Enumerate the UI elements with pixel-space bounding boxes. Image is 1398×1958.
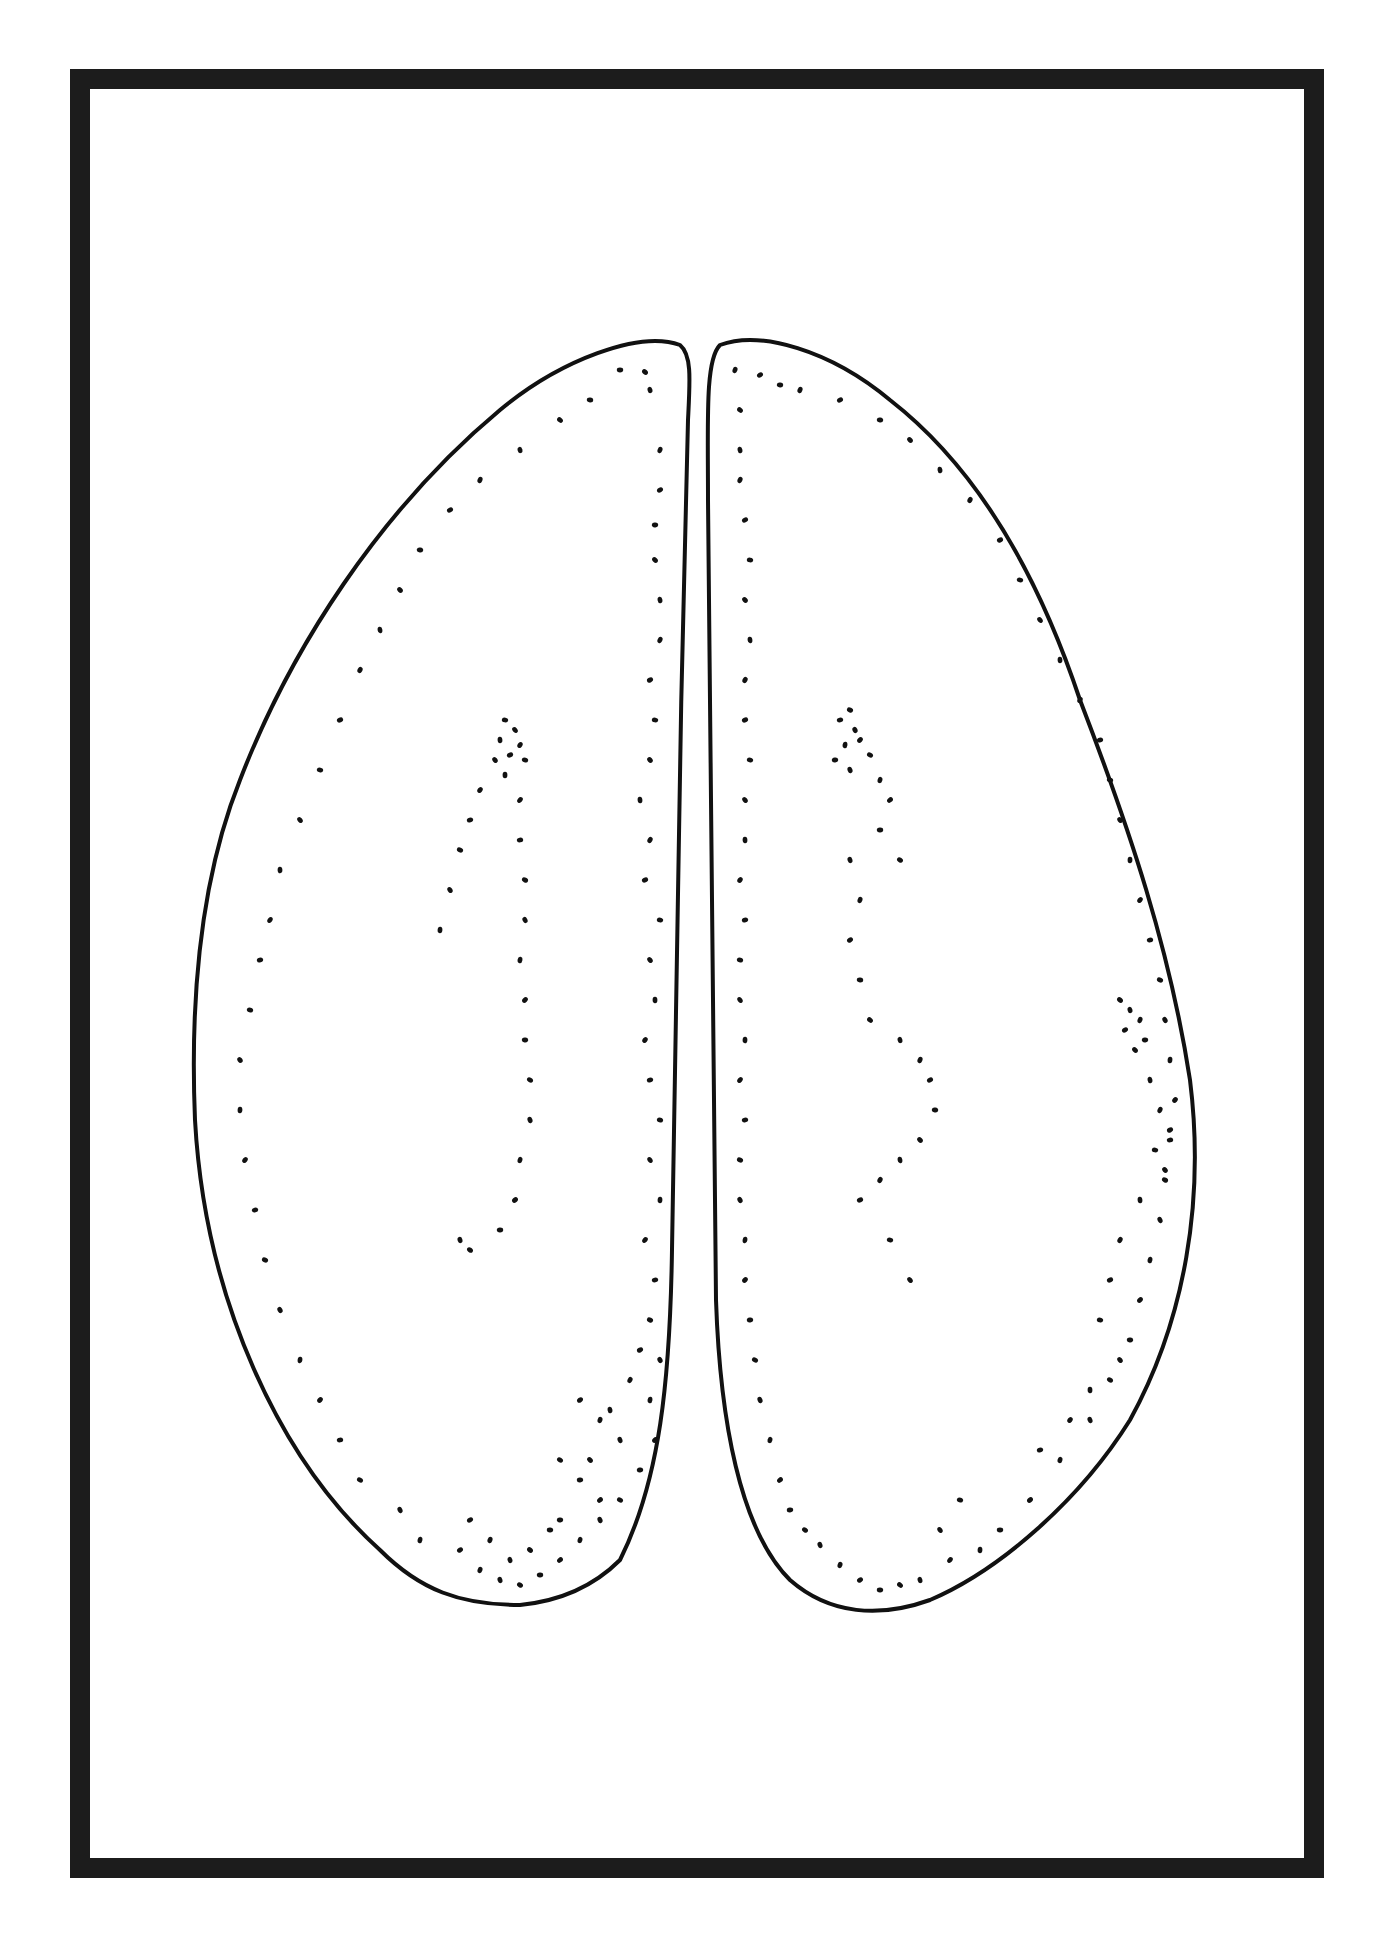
stipple-dot (517, 956, 523, 963)
stipple-dot (256, 957, 264, 964)
stipple-dot (526, 1076, 534, 1083)
stipple-dot (877, 827, 884, 832)
stipple-dot (477, 476, 484, 484)
stipple-dot (736, 1076, 744, 1084)
stipple-dot (646, 1077, 654, 1083)
stipple-dot (336, 717, 344, 724)
stipple-dot (466, 1246, 474, 1254)
stipple-dot (646, 756, 654, 764)
stipple-dot (931, 1107, 938, 1113)
stipple-dot (742, 1037, 747, 1044)
stipple-dot (1116, 996, 1124, 1004)
stipple-dot (736, 1157, 744, 1164)
stipple-dot (767, 1436, 773, 1443)
stipple-dot (356, 1476, 364, 1483)
stipple-dot (926, 1076, 934, 1083)
stipple-dot (526, 1546, 534, 1554)
stipple-dot (1156, 977, 1164, 984)
stipple-dot (906, 436, 914, 444)
stipple-dot (787, 1507, 794, 1512)
stipple-dot (856, 736, 864, 744)
stipple-dot (396, 586, 404, 594)
stipple-dot (522, 1037, 529, 1042)
stipple-dot (742, 837, 747, 844)
stipple-dot (241, 1156, 249, 1164)
stipple-dot (316, 1396, 324, 1404)
stipple-dot (741, 917, 749, 924)
stipple-dot (757, 1396, 764, 1404)
stipple-dot (637, 1467, 644, 1473)
stipple-dot (906, 1276, 914, 1284)
stipple-dot (896, 856, 904, 864)
stipple-dot (886, 796, 894, 804)
stipple-dot (647, 386, 653, 393)
stipple-dot (586, 1456, 594, 1464)
stipple-dot (977, 1547, 982, 1554)
stipple-dot (466, 817, 473, 823)
stipple-dot (857, 977, 864, 982)
stipple-dot (616, 1496, 624, 1503)
stipple-dot (1127, 1337, 1134, 1342)
stipple-dot (1088, 1387, 1093, 1393)
stipple-dot (356, 666, 363, 674)
stipple-dot (1171, 1096, 1179, 1104)
stipple-dot (1161, 1166, 1169, 1174)
stipple-dot (597, 1516, 604, 1524)
stipple-dot (516, 796, 524, 804)
stipple-dot (1087, 1416, 1094, 1424)
stipple-dot (646, 836, 653, 844)
stipple-dot (996, 536, 1004, 543)
stipple-dot (741, 796, 749, 804)
stipple-dot (916, 1136, 924, 1144)
stipple-dot (641, 368, 649, 376)
stipple-dot (897, 1156, 903, 1163)
stipple-dot (837, 1561, 844, 1569)
stipple-dot (797, 386, 804, 394)
stipple-dot (236, 1056, 244, 1064)
stipple-dot (517, 1156, 523, 1163)
stipple-dot (736, 876, 744, 884)
left-lobe-outline (194, 341, 690, 1605)
stipple-dot (596, 1496, 604, 1504)
stipple-dot (1166, 1126, 1174, 1133)
stipple-dot (657, 446, 664, 454)
stipple-dot (456, 1546, 464, 1554)
stipple-dot (1166, 1137, 1173, 1143)
stipple-dot (501, 717, 508, 723)
stipple-dot (641, 1236, 649, 1244)
stipple-dot (736, 406, 744, 414)
stipple-dot (652, 522, 659, 527)
stipple-dot (1137, 1016, 1144, 1024)
stipple-dot (1136, 1296, 1144, 1304)
stipple-dot (417, 1536, 423, 1543)
stipple-dot (396, 1506, 403, 1514)
stipple-dot (736, 996, 744, 1004)
stipple-dot (636, 1346, 644, 1353)
stipple-dot (1147, 1256, 1153, 1263)
stipple-dot (1146, 937, 1153, 943)
stipple-dot (866, 1016, 874, 1024)
stipple-dot (277, 867, 282, 874)
stipple-dot (466, 1516, 474, 1523)
stipple-dot (1127, 1006, 1133, 1013)
stipple-dot (736, 1196, 743, 1204)
stipple-dot (741, 717, 749, 724)
stipple-dot (651, 1277, 658, 1283)
stipple-dot (521, 876, 529, 883)
stipple-dot (556, 1556, 564, 1564)
stipple-dot (1161, 1176, 1169, 1183)
stipple-dot (477, 1566, 484, 1574)
stipple-dot (1128, 857, 1133, 863)
stipple-dot (846, 706, 854, 713)
stipple-dot (847, 856, 854, 864)
stipple-dot (266, 916, 274, 924)
stipple-dot (537, 1572, 544, 1577)
stipple-dot (527, 1116, 534, 1124)
stipple-dot (917, 1056, 924, 1064)
stipple-dot (756, 371, 764, 379)
stipple-dot (296, 816, 304, 824)
stipple-dot (377, 626, 383, 633)
stipple-dot (656, 486, 664, 493)
stipple-dot (817, 1541, 824, 1549)
stipple-dot (1147, 1076, 1153, 1083)
